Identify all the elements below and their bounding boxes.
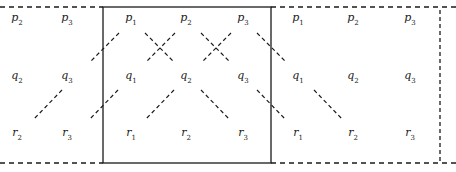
node-label-p2: p2 [180, 11, 192, 26]
periodic-lattice-diagram: p2p3p1p2p3p1p2p3q2q3q1q2q3q1q2q3r2r3r1r2… [0, 0, 456, 172]
node-label-q1: q1 [125, 69, 137, 84]
node-label-r2: r2 [181, 126, 191, 141]
dashed-edge [201, 33, 230, 62]
node-label-r1: r1 [126, 126, 136, 141]
dashed-edge [146, 33, 175, 62]
node-label-q1: q1 [292, 69, 304, 84]
node-label-r3: r3 [62, 126, 72, 141]
node-label-p1: p1 [125, 11, 137, 26]
node-label-r2: r2 [12, 126, 22, 141]
node-label-r3: r3 [238, 126, 248, 141]
node-label-p3: p3 [237, 11, 249, 26]
node-label-p2: p2 [347, 11, 359, 26]
dashed-edge [90, 33, 119, 62]
node-label-r1: r1 [293, 126, 303, 141]
dashed-edge [202, 33, 231, 62]
dashed-edge [201, 90, 230, 120]
node-label-r2: r2 [348, 126, 358, 141]
node-label-p3: p3 [404, 11, 416, 26]
dashed-edge [145, 33, 174, 62]
node-label-p3: p3 [61, 11, 73, 26]
dashed-edge [314, 90, 343, 120]
node-label-q2: q2 [11, 69, 23, 84]
node-label-q2: q2 [347, 69, 359, 84]
node-label-p1: p1 [292, 11, 304, 26]
node-label-q2: q2 [180, 69, 192, 84]
dashed-edge [33, 90, 62, 120]
node-label-r3: r3 [405, 126, 415, 141]
node-label-q3: q3 [61, 69, 73, 84]
node-label-q3: q3 [237, 69, 249, 84]
node-label-p2: p2 [11, 11, 23, 26]
dashed-edge [145, 90, 174, 120]
node-label-q3: q3 [404, 69, 416, 84]
